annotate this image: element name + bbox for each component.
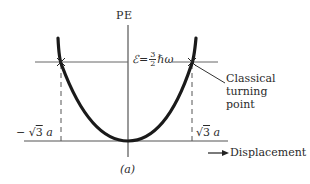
energy-equals: = <box>139 53 148 66</box>
neg-sqrt-radicand: 3 <box>36 126 43 139</box>
displacement-text: Displacement <box>230 146 306 159</box>
neg-sqrt-a: a <box>43 126 53 139</box>
displacement-axis-label: Displacementx <box>230 146 310 159</box>
figure-caption: (a) <box>120 163 135 176</box>
annotation-pointer <box>195 65 225 83</box>
pos-sqrt-prefix: √ <box>196 126 203 139</box>
annotation-line-2: turning <box>226 85 276 98</box>
annotation-line-3: point <box>226 98 276 111</box>
energy-hbar-omega: ℏω <box>157 53 173 66</box>
pos-sqrt-radicand: 3 <box>203 126 210 139</box>
energy-denominator: 2 <box>150 60 155 68</box>
annotation-line-1: Classical <box>226 72 276 85</box>
energy-fraction: 3 2 <box>149 51 156 68</box>
left-turning-position-label: − √3 a <box>16 126 53 139</box>
energy-label: ℰ = 3 2 ℏω <box>132 51 173 68</box>
neg-sqrt-prefix: − √ <box>16 126 36 139</box>
pe-axis-label: PE <box>116 9 132 22</box>
displacement-arrow-icon <box>222 150 229 156</box>
pos-sqrt-a: a <box>210 126 220 139</box>
energy-symbol: ℰ <box>132 53 139 66</box>
classical-turning-point-label: Classical turning point <box>226 72 276 111</box>
potential-parabola <box>58 38 196 141</box>
right-turning-position-label: √3 a <box>196 126 220 139</box>
